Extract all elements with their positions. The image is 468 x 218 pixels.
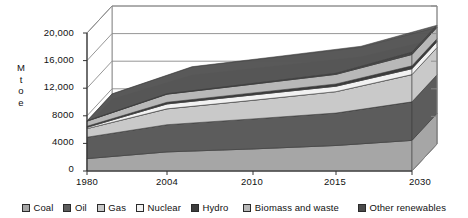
- legend-swatch-icon: [97, 204, 105, 212]
- legend-item[interactable]: Coal: [22, 202, 53, 213]
- legend-item[interactable]: Nuclear: [136, 202, 181, 213]
- chart-figure: M t o e 20,000 16,000 12,000 8000 4000 0…: [0, 0, 468, 218]
- legend-label: Other renewables: [369, 202, 446, 213]
- legend-item[interactable]: Hydro: [191, 202, 228, 213]
- legend-label: Biomass and waste: [255, 202, 339, 213]
- legend-label: Oil: [75, 202, 87, 213]
- legend-item[interactable]: Gas: [97, 202, 126, 213]
- legend-swatch-icon: [63, 204, 71, 212]
- chart-legend: CoalOilGasNuclearHydroBiomass and wasteO…: [0, 197, 468, 218]
- legend-label: Nuclear: [148, 202, 181, 213]
- legend-swatch-icon: [191, 204, 199, 212]
- legend-item[interactable]: Biomass and waste: [243, 202, 339, 213]
- legend-label: Gas: [108, 202, 126, 213]
- legend-swatch-icon: [243, 204, 251, 212]
- legend-swatch-icon: [358, 204, 366, 212]
- legend-swatch-icon: [136, 204, 144, 212]
- legend-item[interactable]: Other renewables: [358, 202, 446, 213]
- stacked-area-plot: [0, 0, 468, 200]
- legend-swatch-icon: [22, 204, 30, 212]
- legend-label: Coal: [33, 202, 53, 213]
- legend-label: Hydro: [203, 202, 229, 213]
- legend-item[interactable]: Oil: [63, 202, 86, 213]
